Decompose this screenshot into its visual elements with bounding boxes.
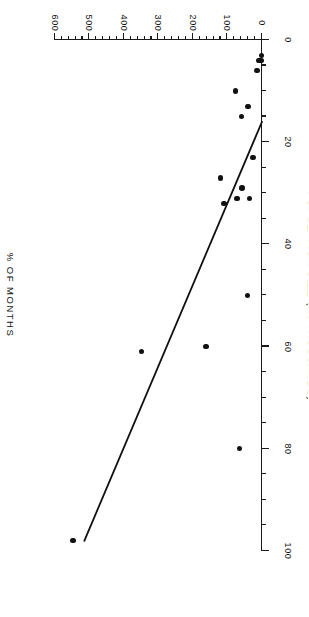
x-axis-tick-label: 0 xyxy=(257,9,267,37)
data-point xyxy=(234,196,239,201)
y-axis-tick-label: 80 xyxy=(281,435,295,463)
y-axis-minor-tick xyxy=(262,167,266,168)
y-axis-tick-label: 60 xyxy=(281,333,295,361)
y-axis-minor-tick xyxy=(262,64,266,65)
y-axis-minor-tick xyxy=(262,524,266,525)
x-axis-tick-label: 300 xyxy=(154,9,164,37)
y-axis-minor-tick xyxy=(262,90,266,91)
y-axis-major-tick xyxy=(262,550,269,551)
y-axis-tick-label: 40 xyxy=(281,230,295,258)
y-axis-major-tick xyxy=(262,39,269,40)
y-axis-minor-tick xyxy=(262,115,266,116)
data-point xyxy=(250,155,255,160)
data-point xyxy=(203,344,208,349)
y-axis-major-tick xyxy=(262,345,269,346)
y-axis-minor-tick xyxy=(262,473,266,474)
y-axis-major-tick xyxy=(262,141,269,142)
y-axis-tick-label: 0 xyxy=(281,26,295,54)
data-point xyxy=(258,58,263,63)
y-axis-tick-label: 20 xyxy=(281,128,295,156)
y-axis-minor-tick xyxy=(262,269,266,270)
x-axis-title: POPULATION SIZE (IN THOUSANDS) xyxy=(302,192,309,399)
x-axis-tick-label: 400 xyxy=(119,9,129,37)
y-axis-minor-tick xyxy=(262,320,266,321)
x-axis-tick-label: 600 xyxy=(50,9,60,37)
data-point xyxy=(259,53,264,58)
y-axis-title: % OF MONTHS xyxy=(2,196,20,396)
y-axis-tick-label: 100 xyxy=(281,537,295,565)
y-axis-minor-tick xyxy=(262,218,266,219)
x-axis-tick-label: 500 xyxy=(85,9,95,37)
y-axis-major-tick xyxy=(262,243,269,244)
y-axis-minor-tick xyxy=(262,294,266,295)
y-axis-minor-tick xyxy=(262,422,266,423)
x-axis-tick-label: 200 xyxy=(188,9,198,37)
plot-area: 0100200300400500600 020406080100 xyxy=(55,40,262,551)
y-axis-minor-tick xyxy=(262,499,266,500)
data-point xyxy=(246,104,251,109)
regression-line xyxy=(55,40,262,551)
data-point xyxy=(239,186,244,191)
y-axis-major-tick xyxy=(262,448,269,449)
scatter-plot-figure: 0100200300400500600 020406080100 POPULAT… xyxy=(0,0,308,617)
y-axis-minor-tick xyxy=(262,397,266,398)
data-point xyxy=(221,201,226,206)
figure-rotation-wrapper: 0100200300400500600 020406080100 POPULAT… xyxy=(0,0,308,617)
y-axis-minor-tick xyxy=(262,371,266,372)
x-axis-tick-label: 100 xyxy=(223,9,233,37)
y-axis-minor-tick xyxy=(262,192,266,193)
data-point xyxy=(218,175,223,180)
